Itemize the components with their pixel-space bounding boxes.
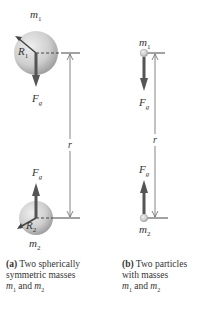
label-r-b: r xyxy=(153,134,157,145)
label-r2: R2 xyxy=(26,220,36,236)
label-fg-a-bottom: Fg xyxy=(32,167,42,183)
label-m2-a: m2 xyxy=(29,238,40,254)
particle-m2 xyxy=(140,214,148,222)
label-fg-b-bottom: Fg xyxy=(139,164,149,180)
label-m1-a: m1 xyxy=(30,9,41,25)
force-arrow-up-head-b xyxy=(140,180,148,193)
force-arrow-down-shaft-b xyxy=(143,57,146,81)
force-arrow-up-shaft-b xyxy=(143,190,146,214)
force-arrow-up-head xyxy=(32,183,40,196)
label-m2-b: m2 xyxy=(139,224,150,240)
label-r-a: r xyxy=(68,139,72,150)
force-arrow-up-shaft xyxy=(35,194,38,218)
caption-b: (b) Two particles with masses m1 and m2 xyxy=(122,259,212,296)
label-fg-b-top: Fg xyxy=(139,97,149,113)
label-m1-b: m1 xyxy=(139,37,150,53)
label-r1: R1 xyxy=(18,46,28,62)
force-arrow-down-head xyxy=(32,75,40,87)
force-arrow-down-head-b xyxy=(140,78,148,91)
label-fg-a-top: Fg xyxy=(32,93,42,109)
force-arrow-down-shaft xyxy=(35,53,38,77)
caption-a: (a) Two spherically symmetric masses m1 … xyxy=(6,259,106,296)
